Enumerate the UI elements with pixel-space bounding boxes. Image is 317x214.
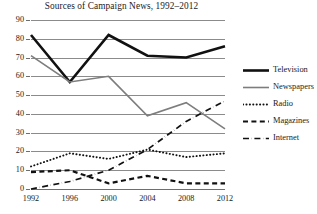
legend-swatch-icon — [243, 130, 269, 147]
legend-label: Radio — [273, 100, 293, 108]
x-axis-tick-label: 2004 — [127, 195, 167, 203]
legend-item-radio[interactable]: Radio — [243, 96, 317, 113]
legend-item-newspapers[interactable]: Newspapers — [243, 79, 317, 96]
legend-swatch-icon — [243, 96, 269, 113]
y-axis-tick-mark — [26, 189, 30, 190]
legend-item-magazines[interactable]: Magazines — [243, 113, 317, 130]
chart-legend: TelevisionNewspapersRadioMagazinesIntern… — [243, 62, 317, 147]
legend-label: Newspapers — [273, 83, 314, 91]
y-axis-tick-label: 0 — [0, 185, 24, 193]
y-axis-tick-label: 20 — [0, 147, 24, 155]
y-axis-tick-label: 40 — [0, 110, 24, 118]
legend-swatch-icon — [243, 113, 269, 130]
y-axis-tick-label: 70 — [0, 54, 24, 62]
legend-label: Internet — [273, 134, 299, 142]
y-axis-tick-label: 90 — [0, 16, 24, 24]
legend-label: Magazines — [273, 117, 309, 125]
legend-label: Television — [273, 66, 308, 74]
y-axis-tick-label: 60 — [0, 72, 24, 80]
y-axis-tick-mark — [26, 20, 30, 21]
y-axis-tick-mark — [26, 170, 30, 171]
y-axis-tick-mark — [26, 151, 30, 152]
x-axis-tick-label: 2012 — [205, 195, 245, 203]
chart-container: Sources of Campaign News, 1992–2012 0102… — [0, 0, 317, 214]
y-axis-tick-label: 10 — [0, 166, 24, 174]
y-axis-tick-mark — [26, 114, 30, 115]
legend-item-television[interactable]: Television — [243, 62, 317, 79]
series-line-radio — [31, 150, 225, 167]
y-axis-tick-mark — [26, 39, 30, 40]
series-line-internet — [31, 101, 225, 189]
y-axis-tick-label: 50 — [0, 91, 24, 99]
x-axis-tick-label: 2000 — [89, 195, 129, 203]
y-axis-tick-mark — [26, 133, 30, 134]
y-axis-tick-mark — [26, 95, 30, 96]
series-lines — [31, 20, 225, 189]
y-axis-tick-label: 30 — [0, 129, 24, 137]
series-line-newspapers — [31, 56, 225, 129]
x-axis-tick-label: 1992 — [11, 195, 51, 203]
series-line-magazines — [31, 170, 225, 183]
x-axis-tick-label: 1996 — [50, 195, 90, 203]
chart-title: Sources of Campaign News, 1992–2012 — [0, 1, 243, 11]
axis-baseline — [31, 189, 225, 190]
x-axis-tick-label: 2008 — [166, 195, 206, 203]
y-axis-tick-label: 80 — [0, 35, 24, 43]
y-axis-tick-mark — [26, 58, 30, 59]
plot-area — [31, 20, 225, 189]
legend-swatch-icon — [243, 62, 269, 79]
legend-item-internet[interactable]: Internet — [243, 130, 317, 147]
y-axis-tick-mark — [26, 76, 30, 77]
legend-swatch-icon — [243, 79, 269, 96]
